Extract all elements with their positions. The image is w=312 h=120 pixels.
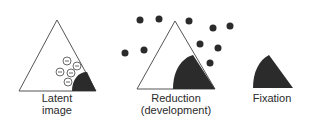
silver-ion-dot [186, 18, 193, 25]
fixation-label: Fixation [244, 92, 300, 104]
silver-ion-dot [227, 23, 234, 30]
label-line: image [22, 104, 92, 116]
electron-icon [63, 57, 71, 65]
label-line: Reduction [130, 92, 222, 104]
reduction-stage [122, 16, 234, 90]
silver-ion-dot [215, 45, 222, 52]
silver-ion-dot [207, 60, 214, 67]
silver-ion-dot [197, 41, 204, 48]
latent-image-stage [19, 20, 96, 91]
label-line: (development) [130, 104, 222, 116]
latent-image-label: Latent image [22, 92, 92, 116]
silver-ion-dot [141, 47, 148, 54]
electron-icon [56, 68, 64, 76]
electron-icon [73, 62, 81, 70]
silver-ion-dot [122, 50, 129, 57]
fixed-silver-region [253, 55, 293, 88]
electron-icon [64, 78, 72, 86]
label-line: Latent [22, 92, 92, 104]
silver-ion-dot [156, 16, 163, 23]
silver-ion-dot [137, 17, 144, 24]
silver-ion-dot [210, 25, 217, 32]
fixation-stage [253, 55, 293, 88]
electron-icon [67, 69, 75, 77]
label-line: Fixation [244, 92, 300, 104]
reduction-label: Reduction (development) [130, 92, 222, 116]
